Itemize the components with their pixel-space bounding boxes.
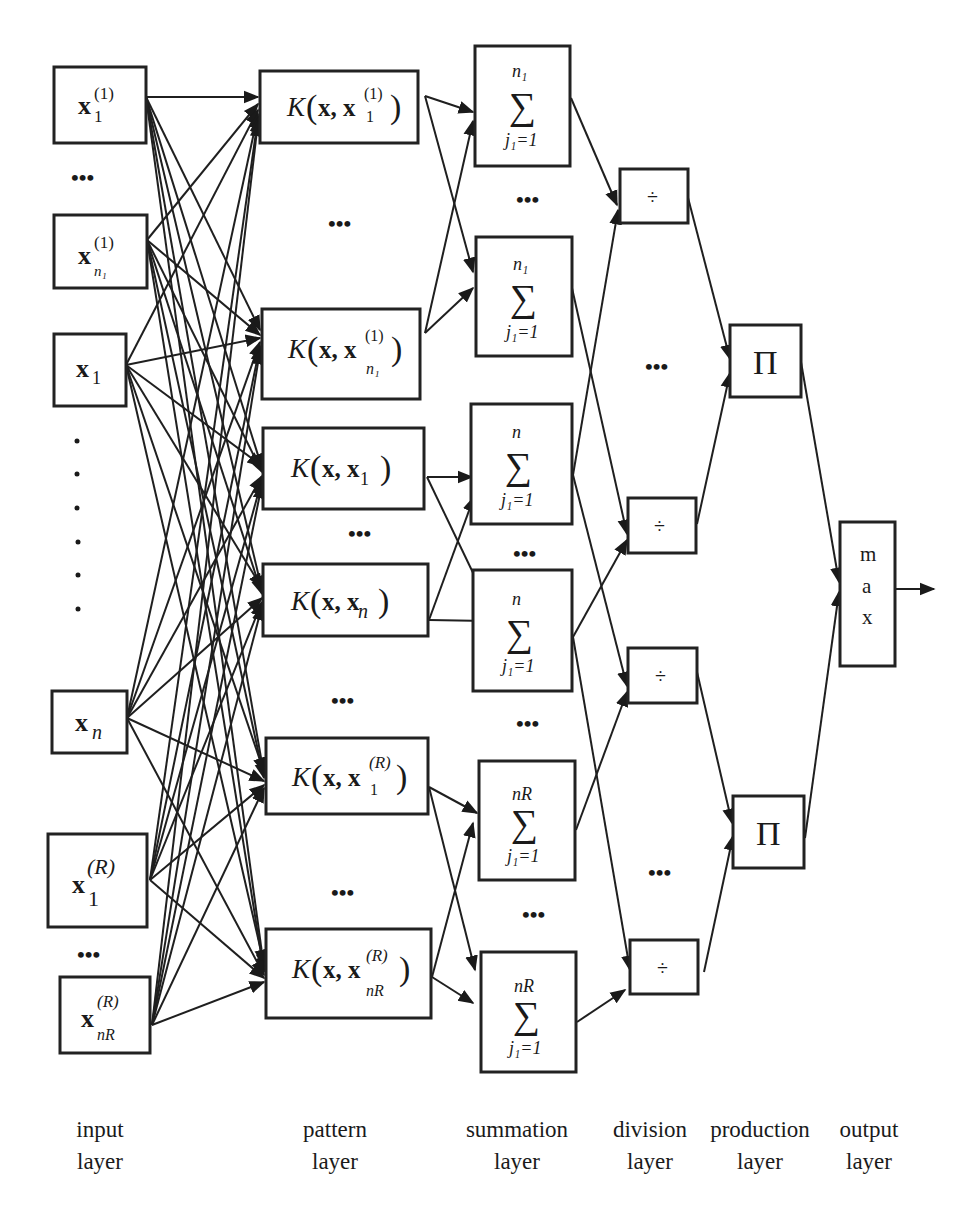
kernel-arg: x, x [323, 956, 361, 983]
pattern-node-6: K ( x, x nR (R) ) [266, 929, 431, 1018]
division-node-4: ÷ [630, 940, 698, 994]
input-node-x1-1: x 1 (1) [54, 67, 146, 143]
pattern-node-2: K ( x, x n₁ (1) ) [262, 309, 420, 399]
node-sub: 1 [94, 107, 103, 126]
edges-division-to-production [686, 190, 733, 972]
sum-lower: j₁=1 [499, 490, 533, 510]
kernel-sub: 1 [360, 469, 369, 489]
kernel-func: K [291, 954, 312, 984]
caption-line1: output [824, 1114, 914, 1146]
caption-line1: summation [450, 1114, 584, 1146]
caption-output-layer: output layer [824, 1114, 914, 1178]
node-sub: n [92, 721, 102, 743]
ellipsis: ••• [516, 187, 539, 212]
node-base: x [81, 1004, 94, 1033]
caption-line1: input [60, 1114, 140, 1146]
summation-node-3: n ∑ j₁=1 [471, 404, 572, 524]
divide-symbol: ÷ [657, 957, 668, 979]
paren-open: ( [310, 449, 321, 487]
kernel-func: K [291, 762, 312, 792]
input-node-xnR-R: x nR (R) [60, 977, 150, 1053]
caption-line1: production [698, 1114, 822, 1146]
node-base: x [72, 870, 85, 899]
ellipsis: ••• [516, 711, 539, 736]
kernel-sup: (R) [366, 946, 388, 965]
vertical-dots [75, 439, 81, 612]
caption-line2: layer [285, 1146, 385, 1178]
product-symbol: Π [753, 344, 778, 381]
summation-node-2: n₁ ∑ j₁=1 [476, 237, 572, 356]
product-symbol: Π [756, 815, 781, 852]
node-sub: 1 [92, 368, 101, 388]
node-sub: n₁ [94, 263, 107, 279]
sum-upper: n [512, 589, 521, 609]
paren-open: ( [306, 88, 317, 126]
network-diagram: x 1 (1) ••• x n₁ (1) x 1 x n x 1 (R) •••… [0, 0, 972, 1213]
node-base: x [78, 91, 91, 120]
node-sup: (R) [87, 854, 115, 879]
caption-line2: layer [450, 1146, 584, 1178]
kernel-sup: (R) [369, 753, 391, 772]
node-base: x [75, 708, 88, 737]
node-sub: nR [97, 1026, 115, 1043]
sum-upper: n [512, 422, 521, 442]
sum-lower: j₁=1 [500, 656, 534, 676]
kernel-arg: x, x [323, 764, 361, 791]
node-sub: 1 [88, 886, 99, 911]
production-node-1: Π [730, 325, 801, 397]
sum-upper: nR [514, 976, 534, 996]
kernel-arg: x, x [319, 336, 357, 363]
ellipsis: ••• [348, 521, 371, 546]
sum-symbol: ∑ [510, 277, 537, 320]
summation-node-6: nR ∑ j₁=1 [481, 952, 576, 1072]
ellipsis: ••• [648, 860, 671, 885]
pattern-node-5: K ( x, x 1 (R) ) [266, 738, 428, 814]
kernel-func: K [287, 334, 308, 364]
sum-lower: j₁=1 [507, 1038, 541, 1058]
sum-upper: nR [512, 784, 532, 804]
caption-division-layer: division layer [600, 1114, 700, 1178]
node-sup: (1) [94, 233, 114, 252]
paren-close: ) [396, 758, 407, 796]
caption-production-layer: production layer [698, 1114, 822, 1178]
kernel-sup: (1) [364, 85, 383, 103]
paren-open: ( [311, 758, 322, 796]
paren-close: ) [378, 582, 389, 620]
kernel-func: K [290, 453, 311, 483]
kernel-sup: (1) [365, 327, 384, 345]
node-base: x [76, 354, 89, 383]
paren-close: ) [380, 449, 391, 487]
kernel-sub: n [358, 600, 368, 622]
sum-symbol: ∑ [509, 85, 536, 128]
caption-line2: layer [60, 1146, 140, 1178]
kernel-sub: n₁ [366, 360, 380, 377]
node-sup: (1) [94, 84, 114, 103]
node-sup: (R) [97, 992, 119, 1011]
caption-line2: layer [698, 1146, 822, 1178]
ellipsis: ••• [328, 211, 351, 236]
input-node-xn: x n [52, 691, 127, 753]
max-letter-x: x [862, 605, 873, 629]
paren-open: ( [311, 950, 322, 988]
kernel-arg: x, x [322, 588, 360, 615]
summation-node-1: n₁ ∑ j₁=1 [475, 46, 570, 166]
ellipsis: ••• [71, 165, 94, 190]
caption-input-layer: input layer [60, 1114, 140, 1178]
production-node-2: Π [733, 796, 804, 868]
sum-lower: j₁=1 [503, 130, 537, 150]
paren-open: ( [310, 582, 321, 620]
max-letter-a: a [862, 574, 872, 598]
max-letter-m: m [860, 542, 876, 566]
output-node-max: m a x [840, 522, 895, 666]
paren-close: ) [390, 88, 401, 126]
caption-line1: division [600, 1114, 700, 1146]
sum-symbol: ∑ [513, 994, 540, 1037]
summation-node-4: n ∑ j₁=1 [473, 570, 572, 691]
pattern-node-4: K ( x, x n ) [263, 564, 428, 636]
kernel-sub: nR [366, 982, 384, 999]
divide-symbol: ÷ [655, 665, 666, 687]
node-base: x [78, 241, 91, 270]
kernel-func: K [286, 92, 307, 122]
kernel-func: K [290, 586, 311, 616]
input-node-x1: x 1 [54, 334, 126, 406]
